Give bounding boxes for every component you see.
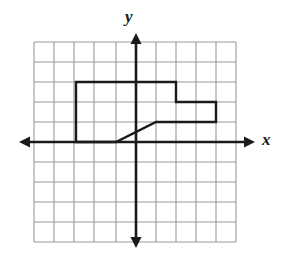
figure-canvas: y x <box>0 0 290 255</box>
x-axis-label: x <box>262 131 271 148</box>
coordinate-plot <box>0 0 290 255</box>
x-axis-left-arrow-icon <box>19 137 30 148</box>
y-axis-label: y <box>125 8 133 25</box>
plotted-polygon <box>76 82 216 142</box>
y-axis-up-arrow-icon <box>131 33 142 44</box>
x-axis-right-arrow-icon <box>244 137 255 148</box>
